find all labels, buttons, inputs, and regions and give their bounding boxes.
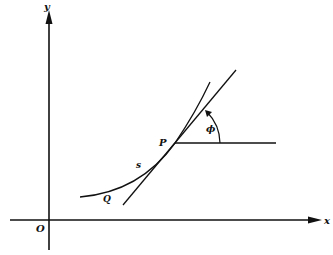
x-axis-label: x [323,215,331,226]
diagram-canvas: y x O P Q s ϕ [0,0,333,255]
y-axis-label: y [43,1,51,12]
y-axis-arrow-icon [46,10,53,24]
diagram-svg: y x O P Q s ϕ [0,0,333,255]
curve [80,82,210,197]
angle-label: ϕ [206,123,216,134]
x-axis-arrow-icon [308,217,322,224]
point-p-label: P [158,137,167,148]
arc-length-label: s [136,160,141,170]
x-axis [10,217,322,224]
origin-label: O [36,223,45,234]
y-axis [46,10,53,250]
point-q-label: Q [103,194,111,204]
